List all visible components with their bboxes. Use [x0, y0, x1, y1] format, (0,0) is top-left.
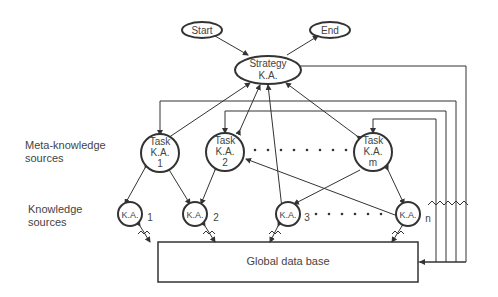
knowledge-sources-line1: Knowledge [28, 203, 82, 216]
knowledge-sources-label: Knowledge sources [28, 203, 82, 229]
task1-label-3: 1 [157, 158, 163, 169]
knowledge-sources-line2: sources [28, 216, 82, 229]
edge-task2-ka2 [201, 170, 215, 204]
edge-strategy-end [287, 36, 318, 55]
edge-kan-db [392, 226, 402, 242]
edge-ka1-db [140, 226, 150, 242]
task1-label-1: Task [150, 136, 172, 147]
taskm-label-2: K.A. [364, 146, 383, 157]
edge-task2-strategy [240, 85, 260, 130]
global-database-label: Global data base [246, 255, 329, 267]
edge-ka3-db [270, 226, 278, 242]
loop-db-task1 [160, 101, 466, 262]
strategy-label-2: K.A. [259, 70, 278, 81]
ellipsis-task-row [254, 149, 348, 152]
task1-label-2: K.A. [151, 147, 170, 158]
edge-taskm-strategy [286, 83, 357, 136]
meta-knowledge-line1: Meta-knowledge [25, 139, 106, 152]
kan-label: K.A. [399, 210, 416, 220]
ka3-index: 3 [304, 212, 310, 223]
ka1-index: 1 [147, 212, 153, 223]
meta-knowledge-label: Meta-knowledge sources [25, 139, 106, 165]
edge-task1-ka2 [168, 168, 190, 204]
ka2-index: 2 [213, 212, 219, 223]
edge-taskm-kan [388, 170, 404, 204]
break-mark-loops [428, 201, 468, 205]
loop-db-task2 [225, 111, 456, 262]
task2-label-2: K.A. [216, 146, 235, 157]
edge-start-strategy [215, 36, 248, 55]
kan-index: n [425, 213, 431, 224]
edge-taskm-ka3 [294, 170, 360, 204]
task2-label-3: 2 [222, 157, 228, 168]
task2-label-1: Task [215, 135, 237, 146]
meta-knowledge-line2: sources [25, 152, 106, 165]
ka2-label: K.A. [186, 210, 203, 220]
start-label: Start [191, 25, 212, 36]
edge-task1-ka1 [125, 168, 145, 204]
end-label: End [321, 25, 339, 36]
taskm-label-3: m [369, 157, 377, 168]
ellipsis-ka-row [315, 213, 383, 216]
strategy-label-1: Strategy [249, 58, 286, 69]
ka1-label: K.A. [121, 210, 138, 220]
ka3-label: K.A. [279, 210, 296, 220]
taskm-label-1: Task [363, 135, 385, 146]
edge-ka2-db [205, 226, 215, 242]
